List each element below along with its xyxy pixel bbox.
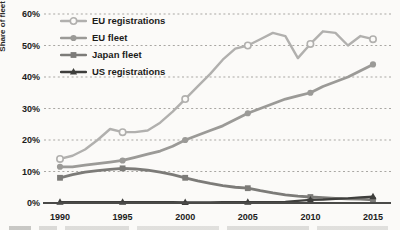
legend-label: EU registrations: [92, 16, 165, 26]
svg-text:1995: 1995: [113, 212, 133, 222]
data-point-marker: [370, 61, 376, 67]
data-point-marker: [307, 90, 313, 96]
legend-item-us-registrations: US registrations: [60, 66, 165, 78]
svg-text:2005: 2005: [238, 212, 258, 222]
legend-label: Japan fleet: [92, 50, 142, 60]
japan-fleet-marker-icon: [60, 50, 87, 60]
svg-text:20%: 20%: [22, 135, 40, 145]
data-point-marker: [182, 96, 188, 102]
data-point-marker: [119, 129, 125, 135]
legend-item-eu-fleet: EU fleet: [60, 32, 165, 44]
svg-text:60%: 60%: [22, 9, 40, 19]
svg-text:2000: 2000: [175, 212, 195, 222]
legend-label: EU fleet: [92, 33, 127, 43]
eu-fleet-marker-icon: [60, 33, 87, 43]
data-point-marker: [370, 36, 376, 42]
data-point-marker: [71, 52, 77, 58]
cropped-caption-strip: [9, 226, 388, 230]
data-point-marker: [57, 175, 63, 181]
svg-text:30%: 30%: [22, 104, 40, 114]
data-point-marker: [57, 164, 63, 170]
chart-figure: Share of fleet and new registrations 0%1…: [0, 0, 400, 230]
legend-item-eu-registrations: EU registrations: [60, 15, 165, 27]
svg-text:50%: 50%: [22, 41, 40, 51]
data-point-marker: [245, 110, 251, 116]
y-tick-labels: 0%10%20%30%40%50%60%: [22, 9, 40, 208]
us-registrations-marker-icon: [60, 67, 87, 77]
svg-text:40%: 40%: [22, 72, 40, 82]
svg-text:0%: 0%: [27, 198, 40, 208]
series-japan-fleet: [57, 165, 376, 202]
svg-text:10%: 10%: [22, 167, 40, 177]
data-point-marker: [57, 156, 63, 162]
eu-registrations-marker-icon: [60, 16, 87, 26]
data-point-marker: [245, 42, 251, 48]
data-point-marker: [70, 18, 76, 24]
svg-text:2010: 2010: [300, 212, 320, 222]
data-point-marker: [245, 185, 251, 191]
svg-text:2015: 2015: [363, 212, 383, 222]
data-point-marker: [70, 35, 76, 41]
data-point-marker: [182, 175, 188, 181]
legend-label: US registrations: [92, 67, 165, 77]
data-point-marker: [307, 41, 313, 47]
svg-text:1990: 1990: [50, 212, 70, 222]
y-axis-title: Share of fleet and new registrations: [0, 0, 7, 52]
legend-item-japan-fleet: Japan fleet: [60, 49, 165, 61]
data-point-marker: [182, 137, 188, 143]
data-point-marker: [120, 157, 126, 163]
x-tick-labels: 199019952000200520102015: [50, 212, 383, 222]
legend: EU registrations EU fleet Japan fleet US…: [60, 15, 165, 78]
data-point-marker: [120, 165, 126, 171]
